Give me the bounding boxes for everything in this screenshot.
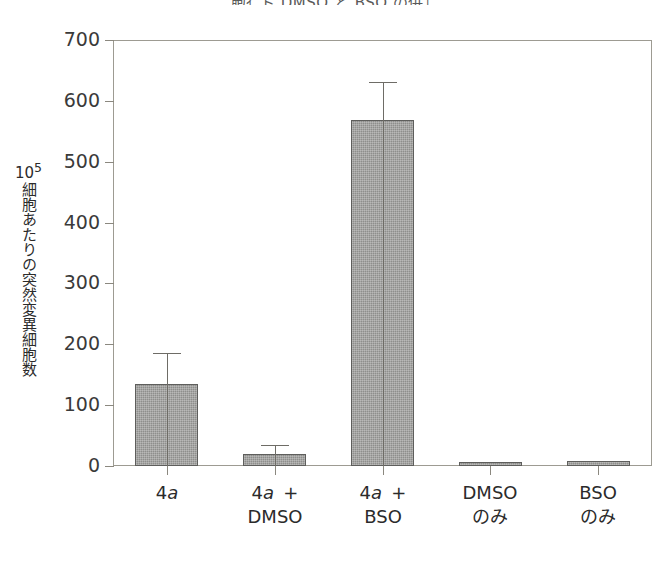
y-axis-exponent-base: 10 xyxy=(15,164,34,182)
x-axis-tick xyxy=(598,466,599,475)
error-bar-stem-2 xyxy=(275,445,276,466)
x-axis-label-line: のみ xyxy=(544,505,652,529)
error-bar-stem-1 xyxy=(167,353,168,466)
x-axis-label-line: 4a xyxy=(113,481,221,505)
bar-5 xyxy=(567,461,630,466)
y-axis-title: 105細胞あたりの突然変異細胞数 xyxy=(8,118,42,418)
y-axis-tick xyxy=(105,466,114,467)
y-axis-tick-label-group: 0100200300400500600700 xyxy=(38,0,100,568)
x-axis-tick xyxy=(383,466,384,475)
bar-4 xyxy=(459,462,522,466)
y-axis-tick-label: 600 xyxy=(40,91,100,110)
x-axis-label-4: DMSOのみ xyxy=(436,481,544,529)
y-axis-tick-label: 100 xyxy=(40,395,100,414)
y-axis-tick xyxy=(105,344,114,345)
y-axis-tick-label: 300 xyxy=(40,273,100,292)
error-bar-cap-1 xyxy=(153,353,181,354)
x-axis-label-line: DMSO xyxy=(221,505,329,529)
x-axis-label-3: 4a +BSO xyxy=(329,481,437,529)
x-axis-tick xyxy=(275,466,276,475)
x-axis-label-line: BSO xyxy=(544,481,652,505)
x-axis-label-line: のみ xyxy=(436,505,544,529)
y-axis-tick-label: 200 xyxy=(40,334,100,353)
y-axis-tick xyxy=(105,405,114,406)
x-axis-label-1: 4a xyxy=(113,481,221,505)
y-axis-title-text: 細胞あたりの突然変異細胞数 xyxy=(19,182,37,377)
y-axis-tick-label: 0 xyxy=(40,456,100,475)
x-axis-label-line: DMSO xyxy=(436,481,544,505)
y-axis-tick-label: 500 xyxy=(40,152,100,171)
y-axis-tick xyxy=(105,40,114,41)
y-axis-tick xyxy=(105,283,114,284)
y-axis-tick-label: 700 xyxy=(40,30,100,49)
x-axis-label-line: BSO xyxy=(329,505,437,529)
x-axis-tick xyxy=(490,466,491,475)
error-bar-cap-2 xyxy=(261,445,289,446)
x-axis-label-line: 4a + xyxy=(221,481,329,505)
y-axis-tick-label: 400 xyxy=(40,213,100,232)
error-bar-cap-3 xyxy=(369,82,397,83)
x-axis-tick xyxy=(167,466,168,475)
y-axis-tick xyxy=(105,162,114,163)
x-axis-label-5: BSOのみ xyxy=(544,481,652,529)
y-axis-tick xyxy=(105,223,114,224)
error-bar-stem-3 xyxy=(383,82,384,466)
x-axis-label-line: 4a + xyxy=(329,481,437,505)
y-axis-tick xyxy=(105,101,114,102)
x-axis-label-2: 4a +DMSO xyxy=(221,481,329,529)
